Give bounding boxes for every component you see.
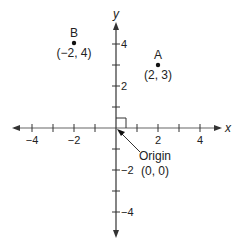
right-angle-marker-icon (116, 118, 126, 128)
x-axis-left-arrow-icon (12, 125, 20, 131)
y-axis: 4 2 −2 −4 y (112, 7, 134, 238)
y-axis-down-arrow-icon (113, 230, 119, 238)
point-a: A (2, 3) (144, 48, 172, 82)
x-axis-right-arrow-icon (214, 125, 222, 131)
y-axis-up-arrow-icon (113, 22, 119, 30)
origin-pointer-line (121, 133, 140, 152)
origin-pointer-arrow-icon (117, 129, 125, 136)
origin-label: Origin (139, 149, 171, 163)
x-axis-label: x (224, 121, 232, 135)
y-axis-label: y (112, 7, 120, 21)
origin-coords: (0, 0) (141, 164, 169, 178)
y-tick-label-2: 2 (121, 80, 127, 92)
coordinate-plane: −4 −2 2 4 x 4 2 −2 −4 y B (−2, 4) (0, 0, 241, 247)
y-tick-label-neg4: −4 (121, 206, 134, 218)
x-tick-label-2: 2 (155, 134, 161, 146)
point-b: B (−2, 4) (56, 26, 91, 60)
x-tick-label-neg4: −4 (26, 134, 39, 146)
y-tick-label-neg2: −2 (121, 164, 134, 176)
y-tick-label-4: 4 (121, 38, 127, 50)
point-a-dot-icon (156, 63, 160, 67)
point-b-name: B (70, 26, 78, 40)
point-b-coords: (−2, 4) (56, 46, 91, 60)
x-tick-label-neg2: −2 (68, 134, 81, 146)
point-a-coords: (2, 3) (144, 68, 172, 82)
point-b-dot-icon (72, 41, 76, 45)
point-a-name: A (154, 48, 162, 62)
x-tick-label-4: 4 (197, 134, 203, 146)
